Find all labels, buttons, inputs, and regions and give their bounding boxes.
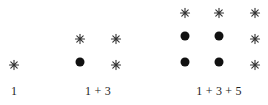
filled-dot-icon [215,58,224,67]
asterisk-icon [180,5,191,16]
filled-dot-icon [76,58,85,67]
asterisk-icon [9,57,20,68]
odd-sum-squares-diagram: 1 1 + 3 1 + 3 + 5 [0,0,268,105]
asterisk-icon [214,5,225,16]
group-label: 1 + 3 [85,84,111,99]
group-label: 1 [11,84,17,99]
asterisk-icon [250,5,261,16]
group-label: 1 + 3 + 5 [196,84,241,99]
asterisk-icon [250,31,261,42]
filled-dot-icon [181,58,190,67]
asterisk-icon [75,31,86,42]
asterisk-icon [111,57,122,68]
filled-dot-icon [181,32,190,41]
asterisk-icon [111,31,122,42]
filled-dot-icon [215,32,224,41]
asterisk-icon [250,57,261,68]
